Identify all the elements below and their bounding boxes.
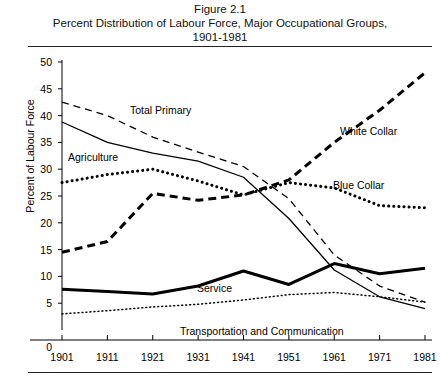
series-line-service xyxy=(62,264,425,295)
series-label-blue-collar: Blue Collar xyxy=(333,180,384,191)
series-line-transportation-and-communication xyxy=(62,292,425,313)
series-label-agriculture: Agriculture xyxy=(68,152,118,163)
series-label-transportation: Transportation and Communication xyxy=(180,326,344,337)
figure-container: Figure 2.1 Percent Distribution of Labou… xyxy=(0,0,440,388)
series-label-service: Service xyxy=(197,283,232,294)
series-label-total-primary: Total Primary xyxy=(130,105,191,116)
series-label-white-collar: White Collar xyxy=(340,126,397,137)
